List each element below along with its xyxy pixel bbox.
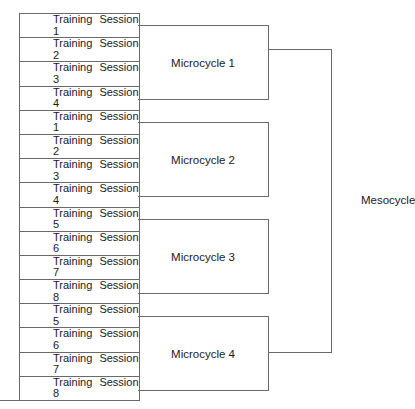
session-label: Training Session xyxy=(53,377,139,389)
session-number: 2 xyxy=(53,145,59,157)
session-label: Training Session xyxy=(53,280,139,292)
session-row: Training Session4 xyxy=(20,183,139,207)
session-number: 7 xyxy=(53,363,59,375)
session-number: 5 xyxy=(53,218,59,230)
session-number: 7 xyxy=(53,266,59,278)
session-label: Training Session xyxy=(53,38,139,50)
session-label: Training Session xyxy=(53,62,139,74)
session-label: Training Session xyxy=(53,328,139,340)
session-row: Training Session4 xyxy=(20,87,139,111)
session-number: 1 xyxy=(53,121,59,133)
microcycle-1-label: Microcycle 1 xyxy=(171,57,235,69)
session-number: 8 xyxy=(53,387,59,399)
session-row: Training Session6 xyxy=(20,328,139,352)
session-label: Training Session xyxy=(53,256,139,268)
session-row: Training Session6 xyxy=(20,232,139,256)
session-row: Training Session5 xyxy=(20,208,139,232)
session-label: Training Session xyxy=(53,353,139,365)
baseline xyxy=(0,400,138,401)
session-row: Training Session1 xyxy=(20,111,139,135)
session-label: Training Session xyxy=(53,159,139,171)
microcycle-2-bracket: Microcycle 2 xyxy=(138,122,269,197)
session-number: 6 xyxy=(53,339,59,351)
session-number: 3 xyxy=(53,73,59,85)
mesocycle-bracket-top xyxy=(269,49,331,50)
session-row: Training Session2 xyxy=(20,38,139,62)
session-number: 2 xyxy=(53,49,59,61)
microcycle-3-label: Microcycle 3 xyxy=(171,251,235,263)
session-number: 4 xyxy=(53,97,59,109)
session-row: Training Session5 xyxy=(20,304,139,328)
mesocycle-label: Mesocycle xyxy=(361,194,415,206)
session-number: 8 xyxy=(53,291,59,303)
microcycle-2-label: Microcycle 2 xyxy=(171,154,235,166)
mesocycle-bracket-right xyxy=(331,49,332,353)
microcycle-1-bracket: Microcycle 1 xyxy=(138,25,269,100)
session-label: Training Session xyxy=(53,232,139,244)
training-sessions-column: Training Session1 Training Session2 Trai… xyxy=(19,13,140,401)
session-number: 3 xyxy=(53,170,59,182)
session-row: Training Session8 xyxy=(20,377,139,401)
session-row: Training Session3 xyxy=(20,62,139,86)
session-label: Training Session xyxy=(53,14,139,26)
session-number: 1 xyxy=(53,25,59,37)
microcycle-4-label: Microcycle 4 xyxy=(171,348,235,360)
session-label: Training Session xyxy=(53,135,139,147)
microcycle-3-bracket: Microcycle 3 xyxy=(138,219,269,294)
session-row: Training Session7 xyxy=(20,353,139,377)
session-label: Training Session xyxy=(53,304,139,316)
microcycle-4-bracket: Microcycle 4 xyxy=(138,316,269,391)
session-label: Training Session xyxy=(53,87,139,99)
session-number: 4 xyxy=(53,194,59,206)
session-label: Training Session xyxy=(53,183,139,195)
session-label: Training Session xyxy=(53,208,139,220)
mesocycle-bracket-bottom xyxy=(269,352,331,353)
session-number: 5 xyxy=(53,315,59,327)
session-row: Training Session7 xyxy=(20,256,139,280)
session-label: Training Session xyxy=(53,111,139,123)
session-row: Training Session8 xyxy=(20,280,139,304)
session-row: Training Session2 xyxy=(20,135,139,159)
session-row: Training Session1 xyxy=(20,14,139,38)
session-row: Training Session3 xyxy=(20,159,139,183)
session-number: 6 xyxy=(53,242,59,254)
